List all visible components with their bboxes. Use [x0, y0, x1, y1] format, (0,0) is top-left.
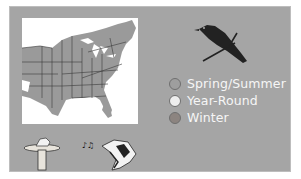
range-map-panel: Spring/Summer Year-Round Winter ♪♫ [10, 7, 290, 171]
birdbath-icon [20, 134, 65, 174]
legend-item-spring-summer: Spring/Summer [169, 75, 286, 92]
legend-label: Spring/Summer [187, 76, 286, 91]
singing-bird-icon: ♪♫ [80, 136, 140, 174]
legend-label: Winter [187, 110, 229, 125]
range-map [22, 18, 138, 124]
legend-item-year-round: Year-Round [169, 92, 286, 109]
us-map-graphic [22, 18, 138, 124]
winter-swatch [169, 112, 181, 124]
legend-label: Year-Round [187, 93, 258, 108]
svg-text:♪♫: ♪♫ [82, 141, 94, 150]
spring-summer-swatch [169, 78, 181, 90]
bird-silhouette-icon [185, 19, 255, 69]
legend: Spring/Summer Year-Round Winter [169, 75, 286, 126]
year-round-swatch [169, 95, 181, 107]
legend-item-winter: Winter [169, 109, 286, 126]
